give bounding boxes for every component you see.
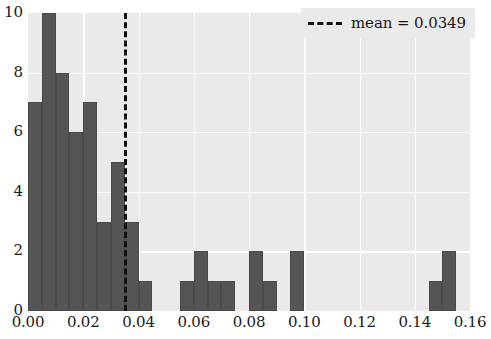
- histogram-bar: [97, 222, 111, 311]
- x-tick-label: 0.10: [279, 313, 329, 331]
- histogram-bar: [69, 132, 83, 311]
- y-tick-label: 8: [0, 63, 23, 81]
- histogram-bar: [180, 281, 194, 311]
- y-tick-label: 0: [0, 301, 23, 319]
- gridline-vertical: [304, 13, 305, 311]
- histogram-bar: [221, 281, 235, 311]
- y-tick-label: 6: [0, 122, 23, 140]
- histogram-bar: [263, 281, 277, 311]
- histogram-bar: [42, 13, 56, 311]
- legend-dashed-line-icon: [308, 22, 342, 25]
- x-tick-label: 0.12: [335, 313, 385, 331]
- legend-entry-label: mean = 0.0349: [351, 14, 466, 32]
- histogram-bar: [139, 281, 153, 311]
- x-tick-label: 0.02: [58, 313, 108, 331]
- mean-line: [124, 13, 127, 311]
- legend: mean = 0.0349: [301, 8, 475, 38]
- x-tick-label: 0.06: [169, 313, 219, 331]
- y-tick-label: 2: [0, 241, 23, 259]
- x-tick-label: 0.16: [445, 313, 491, 331]
- plot-area: [28, 13, 470, 311]
- histogram-bar: [208, 281, 222, 311]
- x-tick-label: 0.08: [224, 313, 274, 331]
- gridline-vertical: [139, 13, 140, 311]
- gridline-horizontal: [28, 73, 470, 74]
- y-tick-label: 4: [0, 182, 23, 200]
- y-tick-label: 10: [0, 3, 23, 21]
- x-tick-label: 0.14: [390, 313, 440, 331]
- histogram-bar: [429, 281, 443, 311]
- histogram-bar: [249, 251, 263, 311]
- histogram-bar: [83, 102, 97, 311]
- histogram-bar: [111, 162, 125, 311]
- gridline-vertical: [360, 13, 361, 311]
- histogram-bar: [28, 102, 42, 311]
- histogram-bar: [442, 251, 456, 311]
- histogram-bar: [194, 251, 208, 311]
- histogram-bar: [56, 73, 70, 311]
- x-tick-label: 0.04: [114, 313, 164, 331]
- gridline-vertical: [415, 13, 416, 311]
- histogram-bar: [290, 251, 304, 311]
